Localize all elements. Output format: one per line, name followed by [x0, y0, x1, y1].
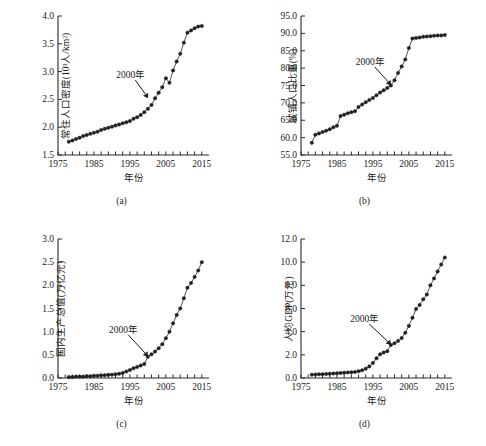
- chart-d-canvas: [301, 239, 452, 378]
- chart-c-xtick-label: 1985: [84, 382, 103, 392]
- chart-b-xtick-label: 1995: [363, 159, 382, 169]
- chart-b-ytick-label: 95.0: [280, 11, 297, 21]
- chart-b-ytick-label: 55.0: [280, 150, 297, 160]
- chart-a-xtick-label: 2005: [156, 159, 175, 169]
- chart-d-xtick-label: 2005: [399, 382, 418, 392]
- chart-c-ytick-label: 3.0: [42, 234, 54, 244]
- chart-c-xtick-label: 1995: [120, 382, 139, 392]
- chart-a-xtick-label: 1985: [84, 159, 103, 169]
- chart-b-ytick-label: 60.0: [280, 133, 297, 143]
- chart-b-ytick-label: 90.0: [280, 28, 297, 38]
- panel-b-caption: (b): [243, 196, 486, 206]
- panel-b: 55.060.065.070.075.080.085.090.095.01975…: [243, 0, 486, 223]
- chart-c-xtick-label: 2015: [192, 382, 211, 392]
- chart-a-ytick-label: 2.0: [42, 122, 54, 132]
- chart-d-xtick-label: 1985: [327, 382, 346, 392]
- chart-b-xtick-label: 1985: [327, 159, 346, 169]
- chart-a-ylabel: 常住人口密度(10³人/km²): [58, 32, 72, 138]
- chart-c-ylabel: 国内生产总值(万亿元): [53, 260, 67, 356]
- panel-a-caption: (a): [0, 196, 243, 206]
- chart-d-xlabel: 年份: [367, 393, 387, 407]
- chart-d-ylabel: 人均GDP(万元): [281, 276, 295, 341]
- chart-d-ytick-label: 10.0: [280, 257, 297, 267]
- chart-b-xtick-label: 1975: [292, 159, 311, 169]
- chart-a-canvas: [58, 16, 209, 155]
- chart-a-ytick-label: 3.5: [42, 39, 54, 49]
- plot-area-c: 0.00.51.01.52.02.53.01975198519952005201…: [58, 239, 209, 378]
- chart-b-xtick-label: 2015: [435, 159, 454, 169]
- plot-area-b: 55.060.065.070.075.080.085.090.095.01975…: [301, 16, 452, 155]
- chart-a-xtick-label: 1995: [120, 159, 139, 169]
- chart-d-ytick-label: 0.0: [285, 373, 297, 383]
- chart-b-xtick-label: 2005: [399, 159, 418, 169]
- chart-a-xlabel: 年份: [124, 170, 144, 184]
- chart-c-xtick-label: 1975: [49, 382, 68, 392]
- chart-a-xtick-label: 1975: [49, 159, 68, 169]
- chart-c-ytick-label: 0.0: [42, 373, 54, 383]
- panel-c: 0.00.51.01.52.02.53.01975198519952005201…: [0, 223, 243, 446]
- chart-a-xtick-label: 2015: [192, 159, 211, 169]
- chart-a-ytick-label: 4.0: [42, 11, 54, 21]
- chart-b-canvas: [301, 16, 452, 155]
- chart-c-xlabel: 年份: [124, 393, 144, 407]
- chart-d-xtick-label: 1975: [292, 382, 311, 392]
- plot-area-a: 1.52.02.53.03.54.019751985199520052015 常…: [58, 16, 209, 155]
- chart-d-xtick-label: 2015: [435, 382, 454, 392]
- chart-d-ytick-label: 12.0: [280, 234, 297, 244]
- figure-four-panel-chart: 1.52.02.53.03.54.019751985199520052015 常…: [0, 0, 486, 446]
- chart-c-xtick-label: 2005: [156, 382, 175, 392]
- panel-d-caption: (d): [243, 419, 486, 429]
- chart-d-xtick-label: 1995: [363, 382, 382, 392]
- chart-a-ytick-label: 2.5: [42, 94, 54, 104]
- chart-c-canvas: [58, 239, 209, 378]
- panel-c-caption: (c): [0, 419, 243, 429]
- panel-d: 0.02.04.06.08.010.012.019751985199520052…: [243, 223, 486, 446]
- chart-b-xlabel: 年份: [367, 170, 387, 184]
- chart-d-ytick-label: 2.0: [285, 350, 297, 360]
- chart-a-ytick-label: 1.5: [42, 150, 54, 160]
- chart-a-ytick-label: 3.0: [42, 67, 54, 77]
- chart-b-ylabel: 城镇人口比重(%): [285, 48, 299, 122]
- panel-a: 1.52.02.53.03.54.019751985199520052015 常…: [0, 0, 243, 223]
- plot-area-d: 0.02.04.06.08.010.012.019751985199520052…: [301, 239, 452, 378]
